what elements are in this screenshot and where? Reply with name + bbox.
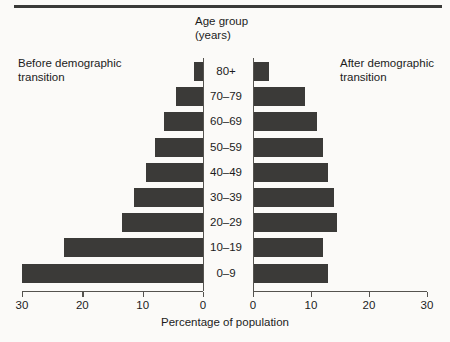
x-axis-tick [369,292,370,297]
zero-baseline [203,58,204,291]
x-axis-tick [203,292,204,297]
x-axis-tick-label: 10 [296,299,326,311]
x-axis-tick-label: 20 [354,299,384,311]
x-axis-tick-label: 10 [128,299,158,311]
x-axis-line [22,291,203,292]
x-axis-tick [82,292,83,297]
population-pyramid-figure: Age group (years) Before demographic tra… [0,0,450,342]
x-axis-tick [22,292,23,297]
x-axis-tick-label: 30 [412,299,442,311]
x-axis-line [253,291,427,292]
x-axis-tick [311,292,312,297]
x-axis-tick-label: 0 [238,299,268,311]
x-axis-tick-label: 30 [7,299,37,311]
zero-baseline [253,58,254,291]
x-axis-tick [427,292,428,297]
x-axis-tick [253,292,254,297]
x-axis-tick-label: 20 [67,299,97,311]
x-axis-tick-label: 0 [188,299,218,311]
x-axis-title: Percentage of population [0,316,450,328]
axes-layer: 30201000102030 [0,0,450,342]
x-axis-tick [143,292,144,297]
